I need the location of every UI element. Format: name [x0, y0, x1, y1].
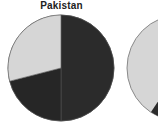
pie-charts — [0, 0, 158, 127]
pie-chart-pakistan — [8, 15, 114, 121]
pie-chart-second-partial — [127, 15, 158, 121]
pie-slice — [61, 15, 114, 121]
